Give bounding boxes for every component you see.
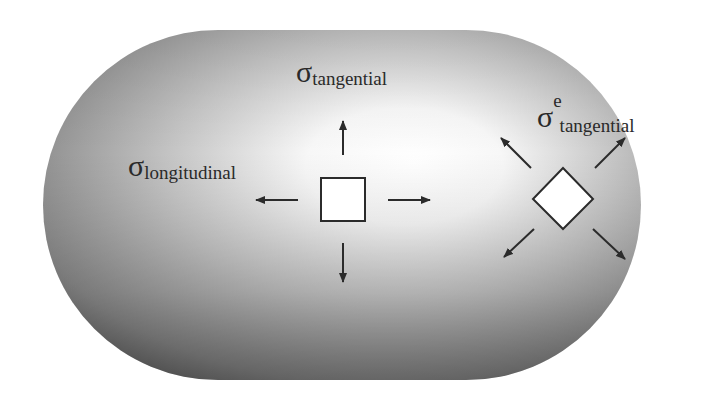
square-stress-element (321, 178, 365, 221)
capsule-diagram: σtangential σlongitudinal σetangential (0, 0, 709, 396)
